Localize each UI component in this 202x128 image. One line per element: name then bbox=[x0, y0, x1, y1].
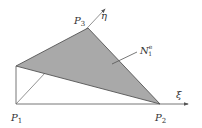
label-xi: ξ bbox=[176, 89, 182, 100]
label-eta: η bbox=[101, 10, 107, 21]
label-p1: P1 bbox=[10, 112, 22, 125]
label-p3: P3 bbox=[73, 15, 85, 28]
shape-function-surface bbox=[16, 28, 160, 104]
shape-function-diagram: P3 η Ne1 ξ P1 P2 bbox=[0, 0, 202, 128]
diagram-canvas: P3 η Ne1 ξ P1 P2 bbox=[0, 0, 202, 128]
label-p2: P2 bbox=[154, 112, 166, 125]
label-n1e: Ne1 bbox=[139, 43, 153, 57]
